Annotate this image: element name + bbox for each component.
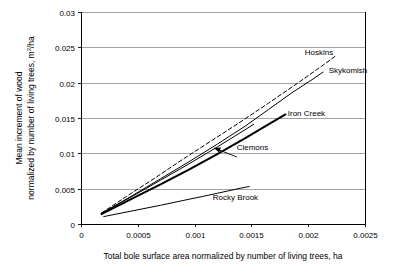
x-tick-label: 0.0025 <box>353 231 378 240</box>
series-label-clemons: Clemons <box>237 143 269 152</box>
series-label-iron-creek: Iron Creek <box>288 109 326 118</box>
y-tick-label: 0.015 <box>55 115 76 124</box>
y-tick-label: 0 <box>71 221 76 230</box>
x-tick-label: 0.001 <box>185 231 206 240</box>
series-label-skykomish: Skykomish <box>329 66 368 75</box>
x-axis-title: Total bole surface area normalized by nu… <box>103 251 342 261</box>
y-tick-label: 0.03 <box>59 9 75 18</box>
series-label-rocky-brook: Rocky Brook <box>213 193 259 202</box>
y-tick-label: 0.02 <box>59 80 75 89</box>
x-tick-label: 0.002 <box>298 231 319 240</box>
y-axis-title-line2: normalized by number of living trees, m3… <box>26 36 36 200</box>
y-tick-label: 0.01 <box>59 150 75 159</box>
x-tick-label: 0.0005 <box>126 231 151 240</box>
y-tick-label: 0.005 <box>55 186 76 195</box>
chart-figure: 00.0050.010.0150.020.0250.03 00.00050.00… <box>0 0 397 269</box>
chart-svg: 00.0050.010.0150.020.0250.03 00.00050.00… <box>0 0 397 269</box>
x-tick-label: 0 <box>79 231 84 240</box>
series-label-hoskins: Hoskins <box>305 48 333 57</box>
x-tick-label: 0.0015 <box>239 231 264 240</box>
y-axis-title-line1: Mean increment of wood <box>14 71 24 164</box>
y-tick-label: 0.025 <box>55 44 76 53</box>
